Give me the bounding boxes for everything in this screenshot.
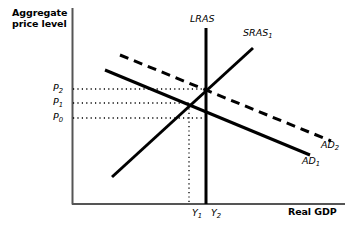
curve-label-lras: LRAS [190, 14, 214, 25]
tick-label-y2-base: Y [211, 207, 217, 218]
curve-label-ad2: AD2 [321, 140, 339, 151]
tick-label-p2-subscript: 2 [59, 87, 63, 95]
aggregate-supply-demand-diagram: Aggregate price level Real GDP LRAS SRAS… [0, 0, 351, 232]
tick-label-p1-subscript: 1 [59, 101, 63, 109]
tick-label-y2: Y2 [211, 208, 221, 219]
curve-label-sras1: SRAS1 [243, 28, 273, 39]
y-axis-title: Aggregate price level [12, 8, 67, 29]
tick-label-p0: P0 [53, 112, 63, 123]
curve-label-ad1-base: AD [302, 155, 316, 166]
curve-sras1 [112, 48, 253, 177]
curve-label-ad1: AD1 [302, 156, 320, 167]
y-axis-title-line2: price level [12, 19, 67, 30]
x-axis-title: Real GDP [288, 207, 337, 218]
curve-label-sras1-subscript: 1 [268, 32, 272, 40]
tick-label-p0-base: P [53, 111, 59, 122]
guide-lines-group [73, 89, 207, 203]
curve-label-ad2-subscript: 2 [335, 144, 339, 152]
tick-label-y2-subscript: 2 [217, 212, 221, 220]
tick-label-y1-base: Y [192, 207, 198, 218]
tick-label-p1: P1 [53, 97, 63, 108]
curve-label-sras1-base: SRAS [243, 27, 268, 38]
tick-label-p1-base: P [53, 96, 59, 107]
curve-ad2 [120, 55, 331, 141]
tick-label-p2: P2 [53, 83, 63, 94]
tick-label-p2-base: P [53, 82, 59, 93]
tick-label-p0-subscript: 0 [59, 116, 63, 124]
curve-label-ad2-base: AD [321, 139, 335, 150]
tick-label-y1-subscript: 1 [198, 212, 202, 220]
curve-label-ad1-subscript: 1 [316, 160, 320, 168]
tick-label-y1: Y1 [192, 208, 202, 219]
